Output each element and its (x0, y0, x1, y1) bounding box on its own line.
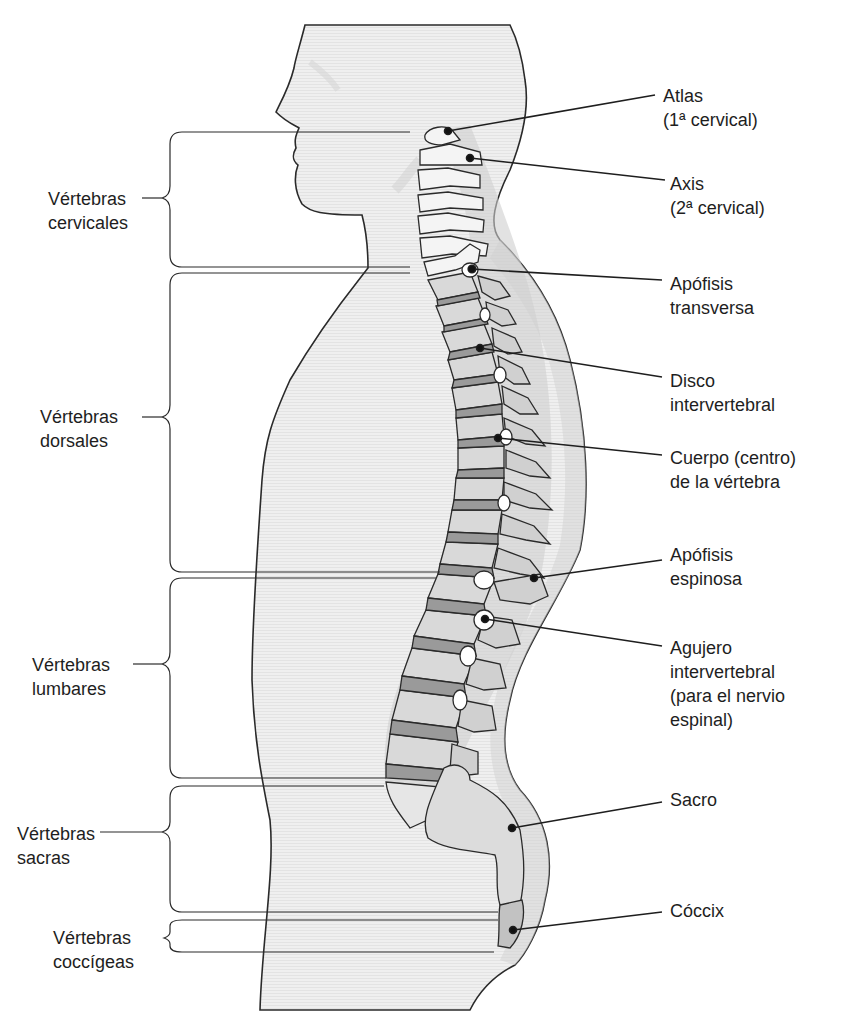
callout-atlas: Atlas (1ª cervical) (663, 84, 758, 132)
callout-sacrum: Sacro (670, 788, 717, 812)
label-coccygeal: Vértebras coccígeas (53, 926, 134, 974)
label-dorsal: Vértebras dorsales (40, 405, 118, 453)
label-lumbar: Vértebras lumbares (32, 653, 110, 701)
callout-spinous-process: Apófisis espinosa (670, 543, 742, 591)
callout-transverse-process: Apófisis transversa (670, 272, 754, 320)
callout-coccyx: Cóccix (670, 899, 724, 923)
label-sacral: Vértebras sacras (17, 822, 95, 870)
spine-illustration (0, 0, 847, 1026)
callout-axis: Axis (2ª cervical) (670, 172, 765, 220)
callout-intervertebral-disc: Disco intervertebral (670, 369, 775, 417)
label-cervical: Vértebras cervicales (48, 187, 128, 235)
callout-intervertebral-foramen: Agujero intervertebral (para el nervio e… (670, 636, 785, 732)
callout-vertebral-body: Cuerpo (centro) de la vértebra (670, 446, 796, 494)
